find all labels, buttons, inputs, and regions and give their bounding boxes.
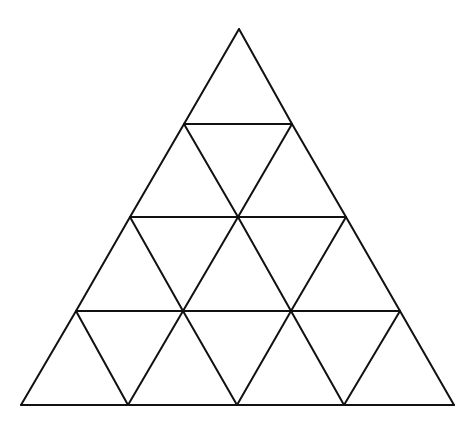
grid-edge-right [184,124,238,217]
triangle-grid-diagram [0,0,471,430]
grid-edge-right [291,311,344,405]
grid-edge-right [183,311,237,405]
grid-edge-left [184,29,239,124]
grid-edge-right [239,29,292,124]
grid-edge-right [292,124,346,217]
grid-edge-right [238,217,291,311]
grid-edge-left [76,217,130,311]
grid-edge-right [346,217,400,311]
grid-edge-left [183,217,238,311]
grid-edge-left [128,311,183,405]
grid-edge-left [21,311,76,405]
grid-edge-right [76,311,128,405]
grid-edge-right [130,217,183,311]
grid-edge-right [400,311,454,405]
grid-edge-left [344,311,400,405]
grid-edge-left [238,124,292,217]
grid-edge-left [130,124,184,217]
triangle-grid-edges [21,29,454,405]
grid-edge-left [237,311,291,405]
grid-edge-left [291,217,346,311]
